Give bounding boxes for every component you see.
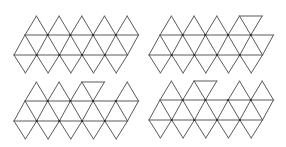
triangle-edge <box>240 16 251 35</box>
net-vertex <box>104 120 106 122</box>
triangle-edge <box>59 82 70 101</box>
net-top-left <box>14 16 139 73</box>
net-vertex <box>182 99 184 101</box>
triangle-edge <box>172 35 183 55</box>
triangle-edge <box>205 16 216 35</box>
net-bottom-left <box>14 82 139 139</box>
triangle-edge <box>251 35 263 55</box>
triangle-edge <box>251 16 262 35</box>
triangle-edge <box>183 100 195 120</box>
triangle-edge <box>263 100 274 120</box>
net-vertex <box>81 120 83 122</box>
net-vertex <box>69 34 71 36</box>
triangle-edge <box>105 55 116 73</box>
triangle-edge <box>228 16 239 35</box>
triangle-edge <box>217 120 228 138</box>
net-vertex <box>227 34 229 36</box>
triangle-edge <box>217 16 228 35</box>
triangle-edge <box>37 35 48 55</box>
net-vertex <box>92 100 94 102</box>
triangle-edge <box>206 55 217 73</box>
triangle-edge <box>240 120 251 138</box>
triangle-edge <box>229 55 240 73</box>
triangle-edge <box>205 81 216 100</box>
triangle-edge <box>240 81 251 100</box>
triangle-edge <box>59 55 70 73</box>
triangle-edge <box>93 35 105 55</box>
triangle-edge <box>82 35 93 55</box>
triangle-edge <box>25 35 37 55</box>
triangle-edge <box>172 120 183 138</box>
triangle-edge <box>48 101 60 121</box>
triangle-edge <box>183 55 194 73</box>
triangle-edge <box>93 101 105 121</box>
triangle-edge <box>70 101 82 121</box>
triangle-edge <box>240 55 251 73</box>
triangle-edge <box>116 16 127 35</box>
triangle-edge <box>48 55 59 73</box>
net-vertex <box>171 119 173 121</box>
triangle-edge <box>93 82 104 101</box>
triangle-edge <box>149 55 160 73</box>
triangle-edge <box>149 35 160 55</box>
net-vertex <box>204 99 206 101</box>
net-vertex <box>171 54 173 56</box>
triangle-edge <box>160 100 172 120</box>
triangle-edge <box>94 55 105 73</box>
triangle-edge <box>48 121 59 139</box>
triangle-edge <box>37 55 48 73</box>
triangle-edge <box>14 35 25 55</box>
triangle-edge <box>105 121 116 139</box>
triangle-edge <box>36 16 47 35</box>
triangle-edge <box>48 16 59 35</box>
triangle-edge <box>240 100 251 120</box>
triangle-edge <box>82 101 93 121</box>
triangle-edge <box>194 16 205 35</box>
net-vertex <box>47 100 49 102</box>
net-vertex <box>216 54 218 56</box>
net-vertex <box>250 99 252 101</box>
triangle-edge <box>82 121 93 139</box>
net-vertex <box>36 120 38 122</box>
triangle-edge <box>251 81 262 100</box>
triangle-edge <box>105 101 116 121</box>
net-vertex <box>92 34 94 36</box>
triangle-edge <box>25 101 37 121</box>
triangle-edge <box>82 55 93 73</box>
triangle-edge <box>127 16 138 35</box>
triangle-edge <box>160 16 171 35</box>
triangle-edge <box>217 35 228 55</box>
triangle-edge <box>171 81 182 100</box>
triangle-edge <box>194 120 205 138</box>
triangle-edge <box>70 35 82 55</box>
triangle-edge <box>128 35 139 55</box>
net-vertex <box>193 119 195 121</box>
net-vertex <box>69 100 71 102</box>
triangle-edge <box>194 35 205 55</box>
triangle-edge <box>14 101 25 121</box>
net-vertex <box>115 100 117 102</box>
triangle-edge <box>25 16 36 35</box>
triangle-edge <box>70 16 81 35</box>
triangle-edge <box>194 55 205 73</box>
triangle-edge <box>25 82 36 101</box>
triangle-edge <box>128 101 139 121</box>
triangle-edge <box>48 82 59 101</box>
triangle-edge <box>71 55 82 73</box>
triangle-edge <box>25 121 36 139</box>
net-vertex <box>182 34 184 36</box>
triangle-edge <box>116 121 127 139</box>
net-vertex <box>104 54 106 56</box>
triangle-edge <box>251 100 263 120</box>
triangle-edge <box>229 120 240 138</box>
triangle-edge <box>48 35 60 55</box>
net-vertex <box>250 34 252 36</box>
triangle-edge <box>205 100 217 120</box>
triangle-edge <box>59 16 70 35</box>
net-vertex <box>115 34 117 36</box>
net-bottom-right <box>149 81 274 138</box>
triangle-edge <box>160 81 171 100</box>
triangle-edge <box>160 35 172 55</box>
triangle-edge <box>59 35 70 55</box>
net-vertex <box>58 54 60 56</box>
